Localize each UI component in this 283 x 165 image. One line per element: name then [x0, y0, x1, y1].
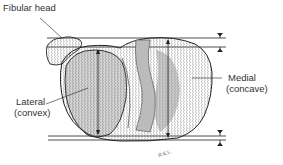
medial-label: Medial	[228, 72, 256, 83]
lateral-label: Lateral	[16, 96, 45, 107]
fibular-head-label: Fibular head	[3, 2, 56, 13]
lateral-sub-label: (convex)	[14, 107, 50, 118]
fibular-head-leader	[40, 18, 62, 38]
medial-sub-label: (concave)	[226, 83, 268, 94]
